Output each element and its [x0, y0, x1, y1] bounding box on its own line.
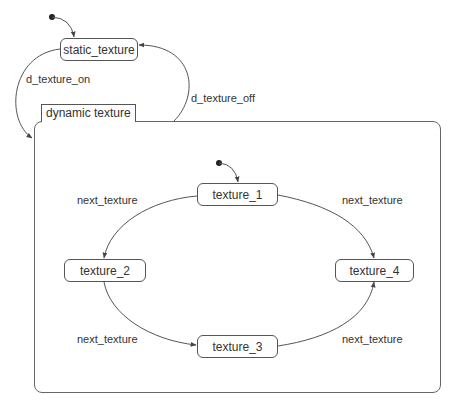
state-texture-1[interactable]: texture_1	[197, 183, 278, 206]
state-texture-3[interactable]: texture_3	[197, 335, 278, 358]
label-d-texture-on: d_texture_on	[26, 73, 90, 85]
state-texture-4[interactable]: texture_4	[335, 259, 414, 282]
edge-d-texture-off	[139, 45, 189, 121]
initial-edge-top	[52, 17, 74, 37]
label-next-texture-t2-t3: next_texture	[77, 333, 138, 345]
label-next-texture-t3-t4: next_texture	[342, 333, 403, 345]
label-d-texture-off: d_texture_off	[191, 92, 255, 104]
state-texture-2[interactable]: texture_2	[64, 259, 146, 282]
composite-label: dynamic texture	[41, 104, 136, 122]
state-static-texture[interactable]: static_texture	[60, 38, 138, 61]
label-next-texture-t1-t4: next_texture	[342, 194, 403, 206]
label-next-texture-t1-t2: next_texture	[77, 194, 138, 206]
